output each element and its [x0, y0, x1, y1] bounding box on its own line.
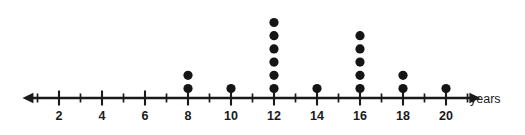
data-dot — [355, 31, 364, 40]
axis-tick-label: 4 — [99, 109, 106, 123]
axis-tick-label-group: 2468101214161820 — [56, 109, 453, 123]
axis-arrow-left-icon — [22, 93, 33, 103]
data-dot — [355, 71, 364, 80]
axis-tick-label: 2 — [56, 109, 63, 123]
data-dot — [355, 44, 364, 53]
data-dot — [312, 84, 321, 93]
data-dot — [269, 71, 278, 80]
dot-column-16 — [355, 31, 364, 93]
number-line-axis — [22, 93, 480, 103]
data-dot-group — [183, 18, 450, 93]
axis-tick-label: 12 — [267, 109, 281, 123]
dot-column-12 — [269, 18, 278, 93]
dot-column-14 — [312, 84, 321, 93]
dot-column-10 — [226, 84, 235, 93]
data-dot — [269, 18, 278, 27]
data-dot — [183, 71, 192, 80]
data-dot — [398, 71, 407, 80]
axis-tick-label: 14 — [310, 109, 324, 123]
data-dot — [355, 58, 364, 67]
data-dot — [441, 84, 450, 93]
data-dot — [269, 44, 278, 53]
axis-tick-label: 18 — [396, 109, 410, 123]
axis-tick-label: 6 — [142, 109, 149, 123]
data-dot — [355, 84, 364, 93]
data-dot — [183, 84, 192, 93]
dot-plot-svg: 2468101214161820 years — [0, 0, 525, 135]
axis-tick-label: 20 — [439, 109, 453, 123]
axis-tick-label: 8 — [185, 109, 192, 123]
data-dot — [269, 84, 278, 93]
data-dot — [398, 84, 407, 93]
data-dot — [269, 58, 278, 67]
axis-unit-label: years — [470, 92, 501, 106]
dot-column-20 — [441, 84, 450, 93]
data-dot — [269, 31, 278, 40]
data-dot — [226, 84, 235, 93]
axis-tick-label: 10 — [224, 109, 238, 123]
axis-tick-label: 16 — [353, 109, 367, 123]
dot-column-18 — [398, 71, 407, 93]
dot-plot-figure: 2468101214161820 years — [0, 0, 525, 135]
dot-column-8 — [183, 71, 192, 93]
